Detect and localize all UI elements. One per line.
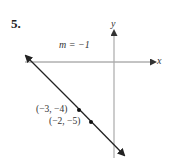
x-axis-label: x <box>157 55 161 66</box>
y-axis-label: y <box>111 18 115 29</box>
coordinate-graph <box>0 0 169 168</box>
point-label: (−2, −5) <box>49 116 80 126</box>
problem-number: 5. <box>11 16 21 32</box>
graph-line <box>26 56 75 105</box>
point-marker <box>77 108 81 112</box>
point-label: (−3, −4) <box>36 104 67 114</box>
graph-line <box>75 105 124 155</box>
point-marker <box>89 120 93 124</box>
slope-label: m = −1 <box>59 39 90 50</box>
